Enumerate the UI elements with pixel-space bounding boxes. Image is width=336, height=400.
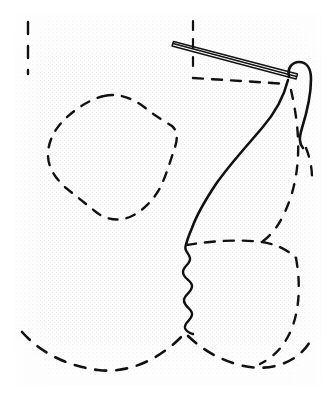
figure-container: Surgical needle and suture line drawing bbox=[0, 0, 336, 400]
line-art-canvas bbox=[0, 0, 336, 400]
